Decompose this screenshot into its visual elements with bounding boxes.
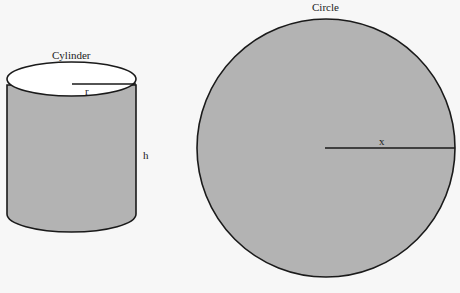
diagram-canvas: Cylinder r h Circle x xyxy=(0,0,460,293)
cylinder-title: Cylinder xyxy=(52,49,91,61)
cylinder-body xyxy=(7,85,136,232)
circle-title: Circle xyxy=(312,1,339,13)
cylinder-figure: Cylinder r h xyxy=(7,49,149,232)
circle-radius-label: x xyxy=(379,135,385,147)
cylinder-radius-label: r xyxy=(85,85,89,97)
cylinder-top-face xyxy=(7,62,136,96)
circle-figure: Circle x xyxy=(197,1,455,277)
cylinder-height-label: h xyxy=(143,149,149,161)
